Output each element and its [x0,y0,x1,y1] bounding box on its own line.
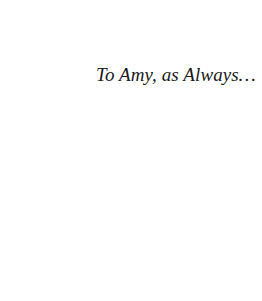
dedication-page: To Amy, as Always… [0,0,262,301]
dedication-text: To Amy, as Always… [96,64,256,86]
